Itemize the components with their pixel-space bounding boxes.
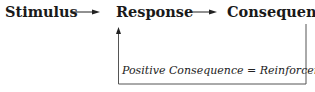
arrow-response-to-consequences [189,10,217,15]
connector-lines [0,0,315,92]
feedback-label: Positive Consequence = Reinforcement [122,64,315,77]
arrow-stimulus-to-response [71,10,100,15]
